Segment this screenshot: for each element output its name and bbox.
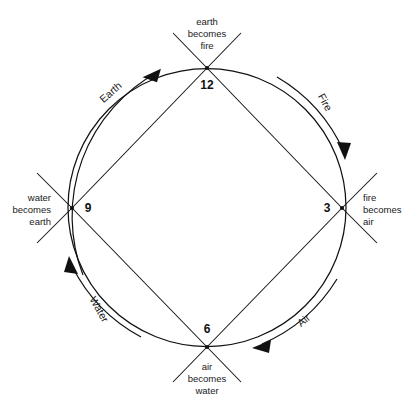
node-dot-3 (340, 206, 344, 210)
node-label-9-line1: water (27, 192, 51, 203)
arrow-head-air (252, 340, 271, 353)
node-number-3: 3 (324, 201, 331, 215)
chord-12-to-3 (207, 68, 342, 208)
diagram-canvas: 12 3 6 9 earth becomes fire fire becomes… (0, 0, 414, 412)
node-number-12: 12 (200, 78, 214, 92)
node-number-9: 9 (85, 201, 92, 215)
node-dot-12 (205, 66, 209, 70)
node-label-6-line2: becomes (188, 373, 227, 384)
chord-3-to-6 (207, 208, 342, 347)
node-dot-6 (205, 345, 209, 349)
main-circle (68, 69, 346, 347)
node-label-9-line3: earth (29, 216, 51, 227)
node-label-3-line3: air (363, 216, 374, 227)
node-label-12-line3: fire (200, 40, 213, 51)
node-label-6-line3: water (194, 385, 218, 396)
node-label-12-line2: becomes (188, 28, 227, 39)
arc-path-water (72, 266, 141, 337)
node-label-3-line1: fire (363, 192, 376, 203)
chord-6-to-9 (72, 208, 207, 347)
node-label-6-line1: air (202, 361, 213, 372)
elements-cycle-diagram: 12 3 6 9 earth becomes fire fire becomes… (0, 0, 414, 412)
node-label-12-line1: earth (196, 16, 218, 27)
node-label-9-line2: becomes (12, 204, 51, 215)
arc-label-fire: Fire (316, 91, 335, 113)
arrow-head-water (64, 256, 78, 274)
node-number-6: 6 (204, 322, 211, 336)
arc-label-water: Water (88, 294, 112, 324)
arrow-head-fire (337, 142, 351, 160)
node-label-3-line2: becomes (363, 204, 402, 215)
